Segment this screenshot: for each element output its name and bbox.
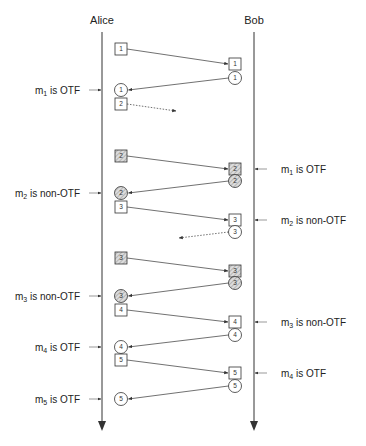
message-number: 3 [119, 292, 123, 299]
message-number: 5 [233, 369, 237, 376]
message-arrow [127, 360, 228, 373]
message-number: 3 [233, 228, 237, 235]
message-number: 5 [119, 356, 123, 363]
message-number: 1 [119, 45, 123, 52]
message-number: 5 [119, 395, 123, 402]
message-number: 4 [119, 343, 123, 350]
sequence-diagram: AliceBob111122222333333344445555m1 is OT… [0, 0, 366, 446]
right-annotation: m1 is OTF [281, 164, 326, 176]
lifeline-arrow-icon [98, 421, 106, 431]
message-number: 4 [233, 331, 237, 338]
lost-ack-arrow [179, 232, 229, 238]
message-number: 1 [119, 86, 123, 93]
message-arrow [127, 207, 228, 220]
left-annotation: m2 is non-OTF [15, 188, 80, 200]
message-number: 3 [233, 216, 237, 223]
left-annotation: m5 is OTF [35, 394, 80, 406]
message-number: 2 [233, 177, 237, 184]
participant-alice: Alice [90, 14, 114, 26]
lifeline-arrow-icon [250, 421, 258, 431]
ack-arrow [129, 335, 229, 347]
right-annotation: m3 is non-OTF [281, 317, 346, 329]
message-number: 4 [233, 318, 237, 325]
message-number: 4 [119, 306, 123, 313]
message-arrow [127, 156, 228, 169]
message-arrow [127, 258, 228, 271]
message-number: 2 [233, 165, 237, 172]
message-number: 2 [119, 100, 123, 107]
participant-bob: Bob [244, 14, 264, 26]
lost-message-arrow [127, 104, 176, 111]
message-arrow [127, 310, 228, 322]
message-number: 3 [233, 267, 237, 274]
message-number: 1 [233, 60, 237, 67]
message-number: 2 [119, 152, 123, 159]
right-annotation: m4 is OTF [281, 368, 326, 380]
message-number: 3 [119, 254, 123, 261]
message-number: 3 [119, 203, 123, 210]
ack-arrow [129, 181, 229, 193]
left-annotation: m3 is non-OTF [15, 291, 80, 303]
left-annotation: m1 is OTF [35, 85, 80, 97]
message-number: 1 [233, 74, 237, 81]
message-number: 5 [233, 382, 237, 389]
ack-arrow [129, 78, 229, 90]
right-annotation: m2 is non-OTF [281, 215, 346, 227]
message-number: 3 [233, 279, 237, 286]
ack-arrow [129, 283, 229, 296]
ack-arrow [129, 386, 229, 399]
left-annotation: m4 is OTF [35, 342, 80, 354]
message-arrow [127, 49, 228, 64]
message-number: 2 [119, 189, 123, 196]
